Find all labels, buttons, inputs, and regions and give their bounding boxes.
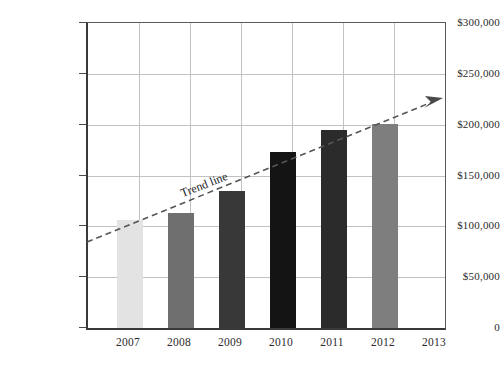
y-axis-tick-mark (79, 175, 86, 176)
bar-2011[interactable] (321, 130, 347, 328)
y-axis-tick-mark (79, 225, 86, 226)
x-axis-tick-label: 2010 (269, 336, 293, 348)
bar-2010[interactable] (270, 152, 296, 328)
bar-2008[interactable] (168, 213, 194, 328)
bar-2007[interactable] (117, 220, 143, 328)
y-axis-tick-mark (79, 276, 86, 277)
y-axis-tick-mark (79, 124, 86, 125)
y-axis-tick-mark (79, 327, 86, 328)
x-axis-tick-label: 2007 (116, 336, 140, 348)
x-axis-tick-label: 2012 (371, 336, 395, 348)
x-axis-tick-label: 2011 (320, 336, 343, 348)
y-axis-tick-mark (79, 73, 86, 74)
x-axis-tick-label: 2009 (218, 336, 242, 348)
bar-2009[interactable] (219, 191, 245, 328)
bar-2012[interactable] (372, 124, 398, 328)
gridline-horizontal (88, 74, 445, 75)
y-axis-tick-mark (79, 22, 86, 23)
plot-area (86, 22, 446, 330)
bar-chart: $300,000 $250,000 $200,000 $150,000 $100… (0, 0, 500, 370)
x-axis-tick-label: 2013 (422, 336, 446, 348)
x-axis-tick-label: 2008 (167, 336, 191, 348)
